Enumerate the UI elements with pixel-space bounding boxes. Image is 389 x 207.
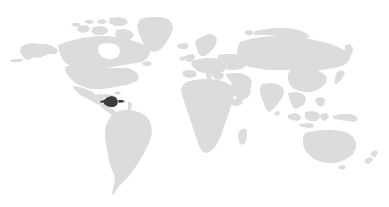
world-map-figure [0,0,389,207]
world-map-svg [0,0,389,207]
